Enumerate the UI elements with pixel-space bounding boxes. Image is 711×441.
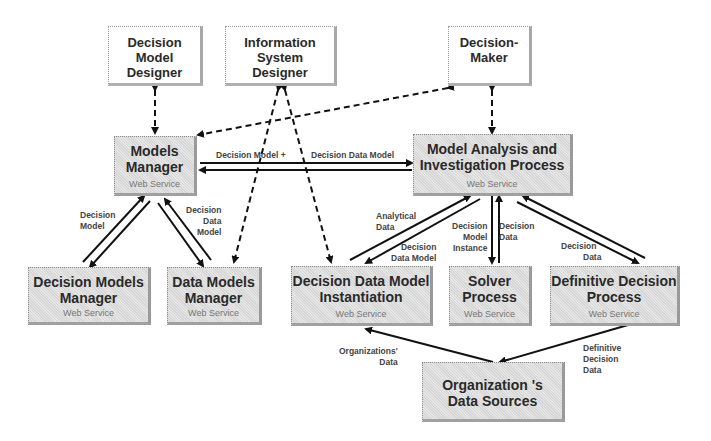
dashed-link-decision-maker-models-manager	[198, 88, 448, 135]
label-decision-data-solver: Decision Data	[499, 221, 534, 243]
solver-process-box: Solver Process Web Service	[449, 266, 532, 326]
information-system-designer-box: Information System Designer	[225, 26, 337, 86]
organization-data-sources-box: Organization 's Data Sources	[422, 362, 565, 422]
label-definitive-decision-data: Definitive Decision Data	[583, 343, 621, 376]
label-decision-data-ddp: Decision Data	[561, 241, 601, 263]
data-models-manager-box: Data Models Manager Web Service	[167, 267, 262, 325]
dashed-link-isd-instantiation	[285, 90, 331, 262]
label-analytical-data: Analytical Data	[376, 211, 416, 233]
label-decision-data-model-top: Decision Data Model	[311, 150, 394, 161]
label-decision-data-model-left: Decision Data Model	[186, 205, 221, 238]
decision-model-designer-box: Decision Model Designer	[108, 26, 203, 86]
definitive-decision-process-box: Definitive Decision Process Web Service	[550, 266, 680, 326]
label-decision-model-instance: Decision Model Instance	[452, 221, 487, 254]
models-manager-box: Models Manager Web Service	[114, 136, 197, 196]
dashed-link-isd-data-models-manager	[234, 90, 278, 262]
label-decision-model-plus: Decision Model +	[216, 150, 286, 161]
label-decision-data-model-ddmi: Decision Data Model	[391, 242, 436, 264]
decision-maker-box: Decision- Maker	[448, 26, 532, 86]
decision-data-model-instantiation-box: Decision Data Model Instantiation Web Se…	[291, 266, 433, 326]
label-organizations-data: Organizations' Data	[339, 346, 398, 368]
model-analysis-box: Model Analysis and Investigation Process…	[413, 134, 573, 196]
label-decision-model-left: Decision Model	[80, 210, 115, 232]
decision-models-manager-box: Decision Models Manager Web Service	[28, 267, 151, 325]
